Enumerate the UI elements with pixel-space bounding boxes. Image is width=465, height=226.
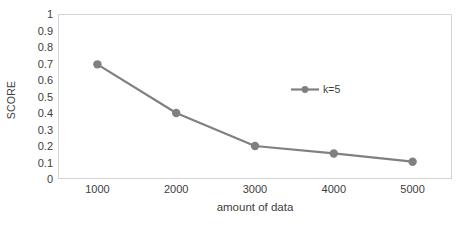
series-markers-k5 [93, 60, 417, 166]
data-point-marker [251, 142, 259, 150]
data-point-marker [93, 60, 101, 68]
y-axis-tick-label: 0.7 [20, 58, 53, 69]
x-axis-tick-label: 4000 [307, 183, 361, 196]
y-axis-tick-label: 0.6 [20, 75, 53, 86]
x-axis-tick-label: 1000 [70, 183, 124, 196]
y-axis-tick-labels: 10.90.80.70.60.50.40.30.20.10 [20, 14, 53, 179]
x-axis-tick-label: 5000 [386, 183, 440, 196]
y-axis-tick-label: 0 [20, 174, 53, 185]
x-axis-tick-label: 2000 [149, 183, 203, 196]
y-axis-tick-label: 0.9 [20, 25, 53, 36]
plot-series-layer [58, 14, 452, 179]
line-chart: SCORE 10.90.80.70.60.50.40.30.20.10 1000… [0, 0, 465, 226]
y-axis-title: SCORE [5, 60, 17, 140]
legend-line-marker-icon [291, 84, 319, 95]
x-axis-tick-labels: 10002000300040005000 [58, 183, 452, 199]
y-axis-tick-label: 0.4 [20, 108, 53, 119]
legend-label-k5: k=5 [323, 84, 340, 95]
y-axis-tick-label: 0.3 [20, 124, 53, 135]
y-axis-tick-label: 1 [20, 9, 53, 20]
y-axis-tick-label: 0.5 [20, 91, 53, 102]
x-axis-title: amount of data [58, 201, 452, 213]
y-axis-tick-label: 0.1 [20, 157, 53, 168]
data-point-marker [408, 157, 416, 165]
x-axis-tick-label: 3000 [228, 183, 282, 196]
y-axis-tick-label: 0.2 [20, 141, 53, 152]
y-axis-tick-label: 0.8 [20, 42, 53, 53]
chart-legend: k=5 [291, 84, 340, 95]
data-point-marker [172, 109, 180, 117]
data-point-marker [330, 149, 338, 157]
